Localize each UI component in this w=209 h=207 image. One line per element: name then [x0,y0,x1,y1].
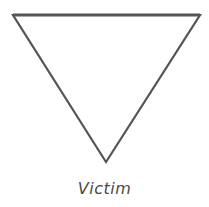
triangle-label: Victim [0,179,209,198]
inverted-triangle-shape [0,0,209,207]
